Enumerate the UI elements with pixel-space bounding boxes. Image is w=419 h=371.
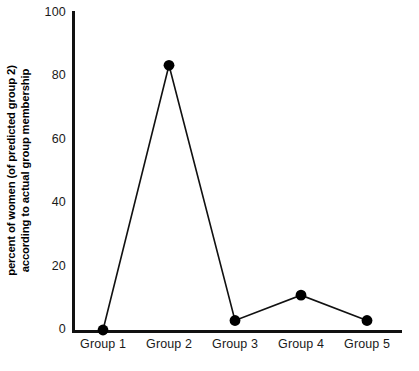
data-series-markers	[98, 60, 373, 335]
data-point-marker	[296, 290, 307, 301]
data-point-marker	[230, 315, 241, 326]
plot-area	[0, 0, 419, 371]
data-point-marker	[98, 325, 109, 336]
data-point-marker	[362, 315, 373, 326]
data-point-marker	[164, 60, 175, 71]
data-series-line	[103, 65, 367, 330]
chart-figure: percent of women (of predicted group 2) …	[0, 0, 419, 371]
